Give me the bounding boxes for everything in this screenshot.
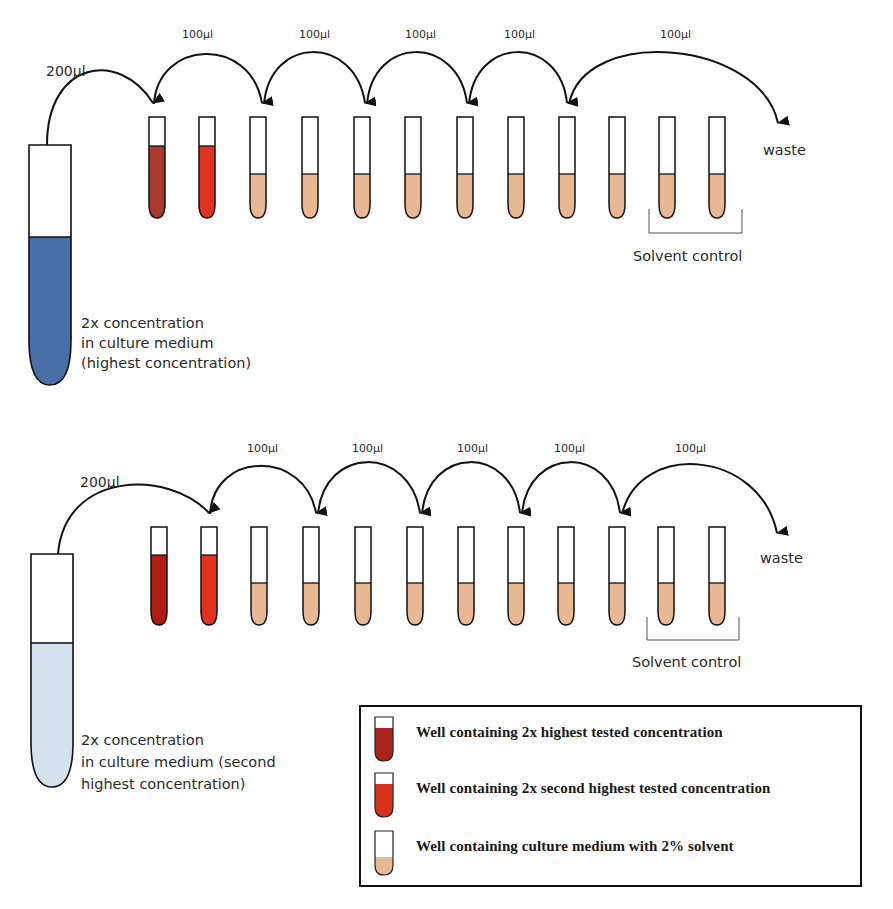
source-tube-top-liquid bbox=[29, 237, 71, 385]
well-row-top bbox=[149, 117, 725, 218]
source-bottom-label-line2: in culture medium (second bbox=[81, 754, 276, 770]
well-liquid bbox=[302, 174, 318, 218]
legend-item-highest: Well containing 2x highest tested concen… bbox=[361, 715, 860, 755]
source-tube-top bbox=[29, 145, 71, 385]
well-beige-icon bbox=[373, 829, 397, 877]
well-liquid bbox=[457, 174, 473, 218]
well-liquid bbox=[199, 146, 215, 218]
well-2 bbox=[199, 117, 215, 218]
well-4 bbox=[302, 117, 318, 218]
well-liquid bbox=[151, 555, 167, 625]
transfer-label-5-top: 100µl bbox=[660, 28, 691, 41]
well-liquid bbox=[659, 174, 675, 218]
transfer-label-2-bottom: 100µl bbox=[352, 442, 383, 455]
well-liquid bbox=[355, 583, 371, 625]
well-8 bbox=[508, 117, 524, 218]
well-3 bbox=[251, 527, 267, 625]
well-12 bbox=[709, 117, 725, 218]
well-1 bbox=[151, 527, 167, 625]
legend: Well containing 2x highest tested concen… bbox=[359, 705, 862, 887]
transfer-label-3-top: 100µl bbox=[405, 28, 436, 41]
well-liquid bbox=[609, 174, 625, 218]
source-top-label-line2: in culture medium bbox=[81, 335, 214, 351]
transfer-label-1-bottom: 100µl bbox=[247, 442, 278, 455]
legend-text-highest: Well containing 2x highest tested concen… bbox=[416, 724, 723, 741]
panel-top: 2x concentration in culture medium (high… bbox=[29, 28, 806, 385]
well-2 bbox=[201, 527, 217, 625]
transfer-label-4-top: 100µl bbox=[504, 28, 535, 41]
well-5 bbox=[354, 117, 370, 218]
transfer-initial-label-top: 200µl bbox=[46, 63, 86, 79]
source-bottom-label-line1: 2x concentration bbox=[81, 732, 204, 748]
well-1 bbox=[149, 117, 165, 218]
well-12 bbox=[709, 527, 725, 625]
transfer-arrow-5-bottom bbox=[622, 464, 777, 533]
transfer-arrow-5-top bbox=[569, 52, 778, 123]
legend-item-second-highest: Well containing 2x second highest tested… bbox=[361, 771, 860, 811]
source-top-label-line3: (highest concentration) bbox=[81, 355, 251, 371]
transfer-arrow-initial-top bbox=[47, 70, 153, 145]
well-11 bbox=[658, 527, 674, 625]
transfer-arrow-3-bottom bbox=[422, 462, 520, 514]
legend-item-solvent: Well containing culture medium with 2% s… bbox=[361, 829, 860, 869]
well-7 bbox=[458, 527, 474, 625]
legend-text-second-highest: Well containing 2x second highest tested… bbox=[416, 780, 771, 797]
well-liquid bbox=[609, 583, 625, 625]
well-9 bbox=[558, 527, 574, 625]
well-red-icon bbox=[373, 771, 397, 819]
well-6 bbox=[405, 117, 421, 218]
well-liquid bbox=[250, 174, 266, 218]
well-liquid bbox=[405, 174, 421, 218]
solvent-control-label-top: Solvent control bbox=[633, 248, 742, 264]
transfer-arrow-4-top bbox=[469, 52, 567, 104]
waste-label-top: waste bbox=[763, 142, 806, 158]
well-3 bbox=[250, 117, 266, 218]
well-liquid bbox=[149, 146, 165, 218]
well-6 bbox=[407, 527, 423, 625]
transfer-label-3-bottom: 100µl bbox=[457, 442, 488, 455]
well-liquid bbox=[303, 583, 319, 625]
solvent-control-label-bottom: Solvent control bbox=[632, 654, 741, 670]
well-10 bbox=[609, 527, 625, 625]
well-liquid bbox=[709, 583, 725, 625]
transfer-arrow-4-bottom bbox=[522, 462, 620, 514]
well-liquid bbox=[354, 174, 370, 218]
waste-label-bottom: waste bbox=[760, 550, 803, 566]
transfer-arrow-initial-bottom bbox=[58, 485, 209, 554]
transfer-arrow-3-top bbox=[367, 52, 467, 104]
transfer-arrow-2-bottom bbox=[318, 462, 420, 514]
well-11 bbox=[659, 117, 675, 218]
transfer-arrow-1-bottom bbox=[210, 466, 316, 514]
well-9 bbox=[559, 117, 575, 218]
legend-text-solvent: Well containing culture medium with 2% s… bbox=[416, 838, 734, 855]
source-bottom-label-line3: highest concentration) bbox=[81, 776, 245, 792]
well-liquid bbox=[658, 583, 674, 625]
well-4 bbox=[303, 527, 319, 625]
well-7 bbox=[457, 117, 473, 218]
well-liquid bbox=[458, 583, 474, 625]
source-tube-bottom bbox=[31, 554, 73, 787]
transfer-label-5-bottom: 100µl bbox=[675, 442, 706, 455]
source-top-label-line1: 2x concentration bbox=[81, 315, 204, 331]
transfer-label-1-top: 100µl bbox=[182, 28, 213, 41]
well-liquid bbox=[407, 583, 423, 625]
transfer-label-4-bottom: 100µl bbox=[554, 442, 585, 455]
well-liquid bbox=[709, 174, 725, 218]
well-10 bbox=[609, 117, 625, 218]
well-liquid bbox=[508, 583, 524, 625]
transfer-arrow-2-top bbox=[264, 52, 365, 104]
source-tube-bottom-liquid bbox=[31, 643, 73, 787]
transfer-initial-label-bottom: 200µl bbox=[80, 474, 120, 490]
well-liquid bbox=[251, 583, 267, 625]
well-liquid bbox=[201, 555, 217, 625]
well-dark-red-icon bbox=[373, 715, 397, 763]
well-liquid bbox=[508, 174, 524, 218]
well-row-bottom bbox=[151, 527, 725, 625]
well-8 bbox=[508, 527, 524, 625]
transfer-arrow-1-top bbox=[154, 54, 262, 104]
transfer-label-2-top: 100µl bbox=[299, 28, 330, 41]
well-liquid bbox=[558, 583, 574, 625]
well-5 bbox=[355, 527, 371, 625]
well-liquid bbox=[559, 174, 575, 218]
